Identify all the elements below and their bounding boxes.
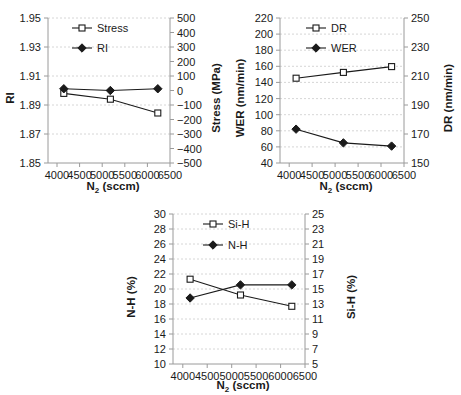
marker-open-square <box>238 292 244 298</box>
y-tick-label: 14 <box>154 328 166 340</box>
y-tick-label: 30 <box>154 208 166 220</box>
marker-filled-diamond <box>288 281 296 289</box>
y2-tick-label: 150 <box>411 157 429 169</box>
marker-filled-diamond <box>106 86 114 94</box>
y-tick-label: 60 <box>261 141 273 153</box>
marker-open-square <box>210 221 216 227</box>
y2-tick-label: 19 <box>312 253 324 265</box>
y-tick-label: 22 <box>154 268 166 280</box>
panel-b-y2tick-labels: 150170190210230250 <box>411 12 429 169</box>
marker-filled-diamond <box>78 44 86 52</box>
panel-c-y-axis-title: N-H (%) <box>125 276 137 318</box>
legend-item-dr: DR <box>306 22 347 34</box>
y2-tick-label: 5 <box>312 358 318 370</box>
y-tick-label: 180 <box>255 44 273 56</box>
marker-filled-diamond <box>209 241 217 249</box>
panel-a-ytick-labels: 1.851.871.891.911.931.95 <box>20 12 41 169</box>
y2-tick-label: 17 <box>312 268 324 280</box>
y-tick-label: 160 <box>255 60 273 72</box>
legend-item-stress: Stress <box>72 22 129 34</box>
chart-panel-c: 1012141618202224262830 57911131517192123… <box>115 192 365 395</box>
marker-open-square <box>79 25 85 31</box>
panel-c-svg: 1012141618202224262830 57911131517192123… <box>115 192 365 395</box>
y-tick-label: 220 <box>255 12 273 24</box>
panel-a-y2tick-labels: −500−400−300−200−1000100200300400500 <box>177 12 202 169</box>
y-tick-label: 1.87 <box>20 128 41 140</box>
y2-tick-label: 21 <box>312 238 324 250</box>
chart-panel-b: 406080100120140160180200220 150170190210… <box>228 0 461 196</box>
y-tick-label: 12 <box>154 343 166 355</box>
x-tick-label: 6000 <box>268 370 292 382</box>
marker-filled-diamond <box>339 139 347 147</box>
y-tick-label: 20 <box>154 283 166 295</box>
y2-tick-label: 100 <box>177 70 195 82</box>
series-n-h <box>186 281 296 303</box>
y2-tick-label: 0 <box>177 85 183 97</box>
legend-item-n-h: N-H <box>203 239 248 251</box>
y2-tick-label: 210 <box>411 70 429 82</box>
panel-c-y2tick-labels: 5791113151719212325 <box>312 208 324 370</box>
y2-tick-label: −200 <box>177 114 202 126</box>
panel-a-y2-axis-title: Stress (MPa) <box>210 63 222 133</box>
y2-tick-label: 400 <box>177 27 195 39</box>
panel-c-y2-axis-title: Si-H (%) <box>345 275 357 319</box>
marker-filled-diamond <box>387 142 395 150</box>
y2-tick-label: 200 <box>177 56 195 68</box>
legend-item-ri: RI <box>72 42 108 54</box>
y2-tick-label: 11 <box>312 313 323 325</box>
y2-tick-label: −500 <box>177 157 202 169</box>
panel-b-svg: 406080100120140160180200220 150170190210… <box>228 0 461 196</box>
y-tick-label: 16 <box>154 313 166 325</box>
panel-b-y2-axis-title: DR (nm/min) <box>442 64 454 133</box>
panel-a-svg: 1.851.871.891.911.931.95 −500−400−300−20… <box>0 0 230 196</box>
y-tick-label: 1.89 <box>20 99 41 111</box>
x-tick-label: 6500 <box>158 169 182 181</box>
x-tick-label: 4000 <box>277 169 301 181</box>
y-tick-label: 1.91 <box>20 70 41 82</box>
legend-label: RI <box>97 42 108 54</box>
x-tick-label: 4000 <box>45 169 69 181</box>
panel-c-legend: Si-HN-H <box>203 218 249 251</box>
panel-b-series <box>292 64 396 151</box>
legend-item-si-h: Si-H <box>203 218 249 230</box>
marker-open-square <box>107 96 113 102</box>
legend-label: WER <box>331 42 357 54</box>
y2-tick-label: 300 <box>177 41 195 53</box>
x-tick-label: 6500 <box>392 169 416 181</box>
y2-tick-label: −100 <box>177 99 202 111</box>
legend-label: N-H <box>228 239 248 251</box>
marker-filled-diamond <box>186 294 194 302</box>
series-ri <box>60 85 162 95</box>
marker-open-square <box>155 110 161 116</box>
marker-filled-diamond <box>292 125 300 133</box>
y-tick-label: 200 <box>255 28 273 40</box>
marker-open-square <box>389 64 395 70</box>
y2-tick-label: 500 <box>177 12 195 24</box>
y2-tick-label: 9 <box>312 328 318 340</box>
y-tick-label: 18 <box>154 298 166 310</box>
y-tick-label: 1.95 <box>20 12 41 24</box>
panel-c-ytick-labels: 1012141618202224262830 <box>154 208 166 370</box>
series-wer <box>292 125 396 150</box>
marker-open-square <box>293 75 299 81</box>
y-tick-label: 1.93 <box>20 41 41 53</box>
y2-tick-label: −300 <box>177 128 202 140</box>
panel-b-legend: DRWER <box>306 22 357 54</box>
panel-a-grid <box>48 18 170 134</box>
y-tick-label: 10 <box>154 358 166 370</box>
y2-tick-label: 15 <box>312 283 324 295</box>
y-tick-label: 40 <box>261 157 273 169</box>
panel-a-series <box>60 85 162 116</box>
y2-tick-label: 250 <box>411 12 429 24</box>
x-tick-label: 6500 <box>293 370 317 382</box>
marker-open-square <box>187 276 193 282</box>
legend-label: Si-H <box>228 218 249 230</box>
y2-tick-label: −400 <box>177 143 202 155</box>
y2-tick-label: 25 <box>312 208 324 220</box>
y-tick-label: 120 <box>255 93 273 105</box>
marker-filled-diamond <box>154 85 162 93</box>
marker-open-square <box>340 69 346 75</box>
panel-b-ytick-labels: 406080100120140160180200220 <box>255 12 273 169</box>
panel-c-x-axis-title: N2 (sccm) <box>216 379 269 394</box>
chart-panel-a: 1.851.871.891.911.931.95 −500−400−300−20… <box>0 0 230 196</box>
